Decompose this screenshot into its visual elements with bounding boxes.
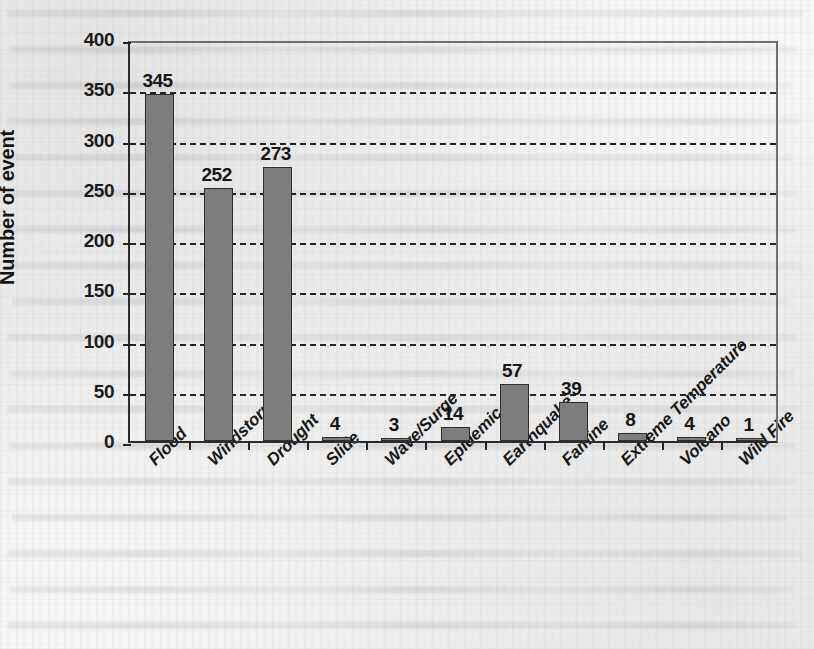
y-axis-tick-label: 200 bbox=[0, 230, 114, 252]
bar[interactable] bbox=[677, 437, 706, 441]
x-axis-tick bbox=[307, 441, 309, 450]
y-axis-tick-label: 100 bbox=[0, 331, 114, 353]
x-axis-tick bbox=[544, 441, 546, 450]
plot-area bbox=[128, 41, 778, 443]
y-axis-tick bbox=[123, 42, 131, 44]
bar[interactable] bbox=[145, 94, 174, 441]
y-axis-tick bbox=[123, 193, 131, 195]
x-axis-tick bbox=[485, 441, 487, 450]
y-axis-tick bbox=[123, 293, 131, 295]
bar-chart: Number of event 400350300250200150100500… bbox=[0, 0, 814, 649]
bar[interactable] bbox=[441, 427, 470, 441]
y-axis-tick-label: 50 bbox=[0, 381, 114, 403]
bar[interactable] bbox=[322, 437, 351, 441]
x-axis-tick bbox=[721, 441, 723, 450]
y-axis-tick bbox=[123, 92, 131, 94]
x-axis-tick bbox=[366, 441, 368, 450]
y-axis-tick-label: 150 bbox=[0, 280, 114, 302]
x-axis-tick bbox=[603, 441, 605, 450]
bar[interactable] bbox=[618, 433, 647, 441]
y-axis-tick bbox=[123, 394, 131, 396]
bar[interactable] bbox=[381, 438, 410, 441]
y-axis-tick-label: 300 bbox=[0, 130, 114, 152]
x-axis-tick bbox=[189, 441, 191, 450]
y-axis-tick bbox=[123, 243, 131, 245]
bar[interactable] bbox=[559, 402, 588, 441]
x-axis-tick bbox=[662, 441, 664, 450]
y-axis-tick bbox=[123, 344, 131, 346]
gridline bbox=[130, 143, 776, 145]
scanned-page: Number of event 400350300250200150100500… bbox=[0, 0, 814, 649]
y-axis-tick bbox=[123, 444, 131, 446]
y-axis-tick bbox=[123, 143, 131, 145]
y-axis-tick-label: 350 bbox=[0, 79, 114, 101]
bar[interactable] bbox=[500, 384, 529, 441]
x-axis-tick bbox=[248, 441, 250, 450]
bar[interactable] bbox=[263, 167, 292, 441]
bar[interactable] bbox=[204, 188, 233, 441]
x-axis-tick bbox=[425, 441, 427, 450]
gridline bbox=[130, 92, 776, 94]
y-axis-tick-label: 400 bbox=[0, 29, 114, 51]
y-axis-tick-label: 0 bbox=[0, 431, 114, 453]
y-axis-tick-label: 250 bbox=[0, 180, 114, 202]
bar[interactable] bbox=[736, 438, 765, 441]
